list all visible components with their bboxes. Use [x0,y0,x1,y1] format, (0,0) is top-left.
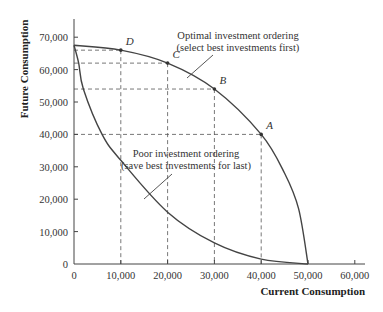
optimal-leader-line [187,55,213,78]
y-tick-label: 60,000 [39,65,68,76]
y-tick-label: 20,000 [39,194,68,205]
optimal-annotation-line-2: (select best investments first) [177,42,300,54]
x-tick-label: 20,000 [153,270,182,281]
x-axis-title: Current Consumption [260,285,365,297]
point-label-d: D [125,35,134,47]
y-tick-label: 10,000 [39,227,68,238]
x-tick-label: 30,000 [200,270,229,281]
poor-leader-line [144,174,172,199]
point-marker-a [259,133,263,137]
point-label-b: B [219,74,226,86]
x-tick-label: 40,000 [247,270,276,281]
point-marker-c [166,61,170,65]
chart: 010,00020,00030,00040,00050,00060,000 01… [0,0,383,312]
y-axis-title: Future Consumption [18,20,30,119]
x-tick-label: 60,000 [340,270,369,281]
y-tick-label: 0 [63,259,68,270]
x-tick-label: 0 [71,270,76,281]
point-marker-b [213,87,217,91]
poor-annotation-line-2: (save best investments for last) [121,160,252,172]
x-tick-label: 10,000 [106,270,135,281]
x-tick-label: 50,000 [294,270,323,281]
optimal-annotation-line-1: Optimal investment ordering [177,30,299,41]
y-axis-ticks: 010,00020,00030,00040,00050,00060,00070,… [39,32,78,270]
x-axis-ticks: 010,00020,00030,00040,00050,00060,000 [71,260,369,281]
poor-annotation: Poor investment ordering (save best inve… [121,148,252,199]
y-tick-label: 30,000 [39,162,68,173]
y-tick-label: 40,000 [39,129,68,140]
point-label-a: A [265,119,273,131]
point-marker-d [119,48,123,52]
y-tick-label: 50,000 [39,97,68,108]
optimal-annotation: Optimal investment ordering (select best… [177,30,300,78]
poor-annotation-line-1: Poor investment ordering [133,148,240,159]
y-tick-label: 70,000 [39,32,68,43]
